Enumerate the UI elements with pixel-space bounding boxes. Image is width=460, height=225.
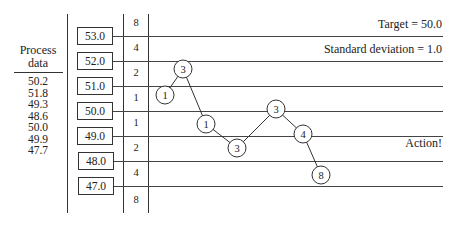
point-score: 3 [273,104,278,115]
point-score: 1 [162,90,167,101]
point-score: 1 [203,119,208,130]
point-score: 4 [300,129,306,140]
zone-chart-plot: 1 3 1 3 3 4 8 [0,0,460,225]
point-score: 3 [234,143,239,154]
point-score: 3 [180,64,185,75]
point-score: 8 [318,170,323,181]
